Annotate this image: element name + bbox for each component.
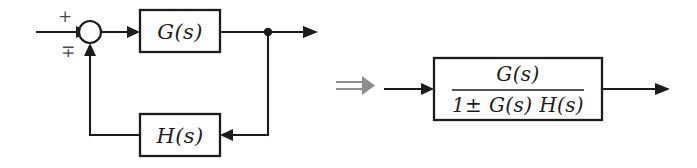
diagram-canvas — [0, 0, 697, 168]
forward-block-label: G(s) — [157, 20, 203, 44]
feedback-sign-minusplus: ∓ — [61, 41, 75, 61]
transfer-function-numerator: G(s) — [496, 62, 539, 86]
feedback-path-right-wire — [220, 32, 268, 141]
feedback-path-left-wire — [84, 43, 140, 135]
equivalent-output-wire — [602, 83, 670, 95]
feedback-block-label: H(s) — [156, 124, 203, 148]
input-sign-plus: + — [58, 6, 72, 26]
implies-arrow-icon — [336, 76, 375, 95]
equivalent-input-wire — [385, 83, 434, 95]
block-diagram-figure: + ∓ G(s) H(s) G(s) 1± G(s) H(s) — [0, 0, 697, 168]
summing-junction — [79, 21, 101, 43]
transfer-function-denominator: 1± G(s) H(s) — [452, 93, 584, 117]
summer-to-forward-block-wire — [101, 26, 140, 38]
